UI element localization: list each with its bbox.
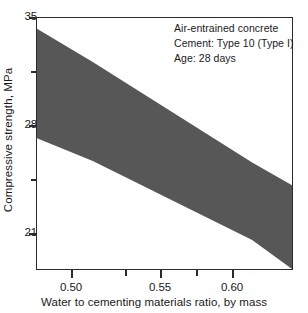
y-axis-title-text: Compressive strength, MPa <box>2 50 14 230</box>
x-axis-tick-0-50 <box>71 270 73 278</box>
annotation-line-concrete-type: Air-entrained concrete <box>174 21 293 36</box>
x-axis-label-0-50: 0.50 <box>51 281 91 293</box>
chart-annotation: Air-entrained concrete Cement: Type 10 (… <box>174 21 293 66</box>
y-axis-title: Compressive strength, MPa <box>2 50 18 230</box>
x-axis-minor-tick-0-525 <box>125 270 127 276</box>
chart-container: Compressive strength, MPa 35 28 21 0.50 … <box>0 0 308 313</box>
x-axis-label-0-60: 0.60 <box>212 281 252 293</box>
x-axis-label-0-55: 0.55 <box>140 281 180 293</box>
annotation-line-cement-type: Cement: Type 10 (Type I) <box>174 36 293 51</box>
x-axis-tick-0-55 <box>160 270 162 278</box>
annotation-line-age: Age: 28 days <box>174 51 293 66</box>
x-axis-title: Water to cementing materials ratio, by m… <box>0 296 308 308</box>
x-axis-tick-0-60 <box>232 270 234 278</box>
x-axis-minor-tick-0-575 <box>196 270 198 276</box>
